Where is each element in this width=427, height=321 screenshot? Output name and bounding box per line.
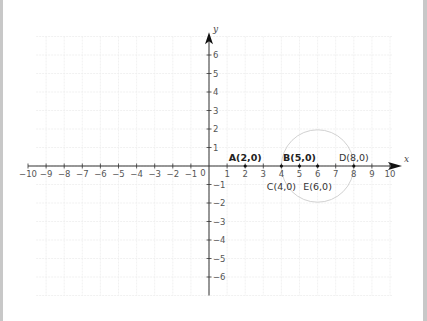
y-tick-label: 3 — [213, 106, 218, 116]
x-tick-label: 6 — [315, 169, 320, 179]
point-b-label: B(5,0) — [283, 152, 316, 163]
point-b-marker — [298, 164, 301, 167]
y-tick-label: −4 — [213, 235, 226, 245]
x-tick-label: 7 — [333, 169, 338, 179]
x-tick-label: −8 — [58, 169, 71, 179]
x-tick-label: 5 — [297, 169, 302, 179]
x-tick-label: 9 — [369, 169, 374, 179]
y-tick-label: 2 — [213, 124, 218, 134]
y-tick-label: −3 — [213, 217, 226, 227]
x-tick-label: −9 — [40, 169, 53, 179]
point-d-marker — [352, 164, 355, 167]
x-axis-label: x — [404, 154, 409, 164]
x-tick-label: 1 — [224, 169, 229, 179]
y-tick-label: −5 — [213, 254, 226, 264]
y-axis-label: y — [212, 24, 219, 34]
x-tick-label: −6 — [94, 169, 107, 179]
origin-label: 0 — [200, 168, 205, 178]
y-tick-label: 4 — [213, 87, 218, 97]
x-tick-label: 10 — [385, 169, 396, 179]
point-a-marker — [244, 164, 247, 167]
point-e-label: E(6,0) — [303, 181, 332, 192]
x-tick-label: 8 — [351, 169, 356, 179]
x-tick-label: −1 — [185, 169, 198, 179]
point-d-label: D(8,0) — [339, 152, 369, 163]
x-tick-label: −2 — [167, 169, 180, 179]
point-c-marker — [280, 164, 283, 167]
x-tick-label: −7 — [76, 169, 89, 179]
y-tick-label: 6 — [213, 50, 218, 60]
y-tick-label: −2 — [213, 198, 226, 208]
x-tick-label: −3 — [148, 169, 161, 179]
point-e-marker — [316, 164, 319, 167]
coordinate-plane: xy −10−9−8−7−6−5−4−3−2−1123456789100−6−5… — [0, 0, 427, 321]
y-tick-label: −1 — [213, 180, 226, 190]
x-tick-label: 3 — [261, 169, 266, 179]
x-tick-label: −5 — [112, 169, 125, 179]
y-tick-label: 1 — [213, 143, 218, 153]
y-tick-label: −6 — [213, 272, 226, 282]
x-tick-label: 2 — [242, 169, 247, 179]
x-tick-label: −10 — [19, 169, 37, 179]
point-c-label: C(4,0) — [267, 181, 296, 192]
x-tick-label: −4 — [130, 169, 143, 179]
diagram-canvas: xy −10−9−8−7−6−5−4−3−2−1123456789100−6−5… — [0, 0, 427, 321]
x-tick-label: 4 — [279, 169, 284, 179]
point-a-label: A(2,0) — [229, 152, 262, 163]
y-tick-label: 5 — [213, 69, 218, 79]
